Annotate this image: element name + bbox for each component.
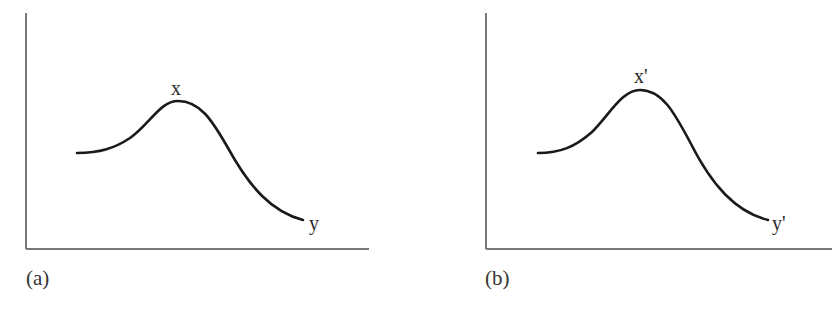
figure-canvas [0, 0, 837, 314]
panel-b-curve [538, 90, 768, 220]
panel-b-end-label: y' [772, 213, 786, 233]
panel-a-peak-label: x [171, 78, 181, 98]
panel-b-caption: (b) [485, 268, 510, 289]
panel-a-curve [77, 101, 303, 220]
panel-b-peak-label: x' [634, 66, 648, 86]
panel-a-end-label: y [309, 213, 319, 233]
panel-a-caption: (a) [26, 268, 49, 289]
